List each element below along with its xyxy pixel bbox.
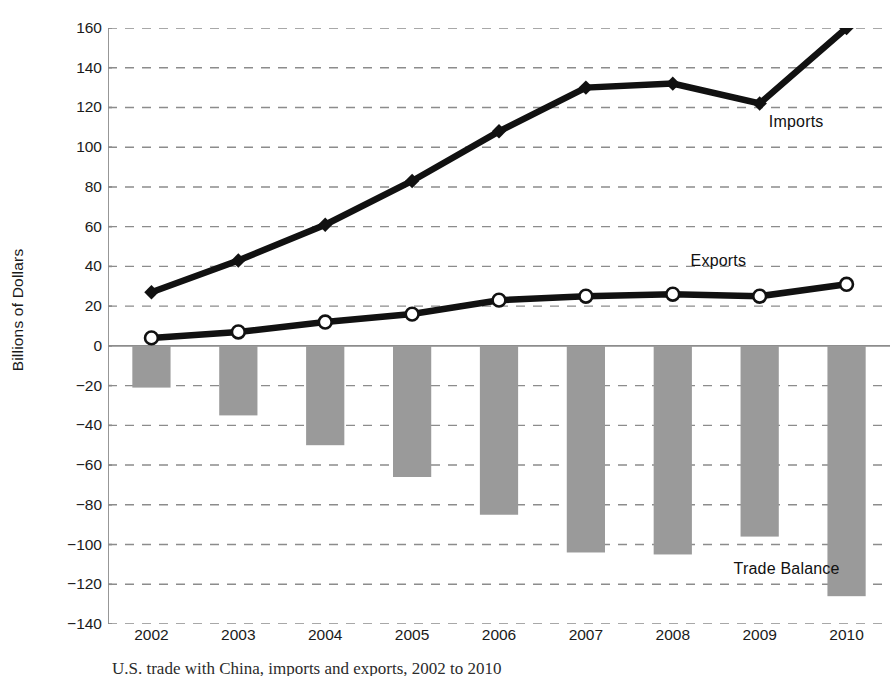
series-label-trade-balance: Trade Balance [734, 560, 840, 578]
y-tick-label: 160 [40, 19, 102, 37]
y-tick-label: −40 [40, 416, 102, 434]
bar-2006 [480, 346, 518, 515]
y-tick-label: −140 [40, 615, 102, 633]
x-tick-label-2003: 2003 [221, 626, 255, 644]
bar-2003 [219, 346, 257, 416]
marker-exports-2006 [493, 294, 506, 307]
x-tick-label-2008: 2008 [656, 626, 690, 644]
y-tick-label: 20 [40, 297, 102, 315]
x-axis-tick-labels: 200220032004200520062007200820092010 [108, 622, 890, 650]
y-tick-label: −100 [40, 536, 102, 554]
y-tick-label: 0 [40, 337, 102, 355]
x-tick-label-2006: 2006 [482, 626, 516, 644]
marker-exports-2002 [145, 332, 158, 345]
x-tick-label-2007: 2007 [569, 626, 603, 644]
y-tick-label: −20 [40, 377, 102, 395]
y-tick-label: 140 [40, 59, 102, 77]
y-tick-label: 80 [40, 178, 102, 196]
y-tick-label: −60 [40, 456, 102, 474]
x-tick-label-2004: 2004 [308, 626, 342, 644]
x-tick-label-2005: 2005 [395, 626, 429, 644]
x-tick-label-2002: 2002 [134, 626, 168, 644]
bar-2008 [654, 346, 692, 555]
y-tick-label: −80 [40, 496, 102, 514]
marker-exports-2005 [406, 308, 419, 321]
bar-2005 [393, 346, 431, 477]
y-tick-label: 100 [40, 138, 102, 156]
series-label-imports: Imports [769, 113, 824, 131]
marker-exports-2009 [753, 290, 766, 303]
y-tick-label: 60 [40, 218, 102, 236]
marker-exports-2003 [232, 326, 245, 339]
y-tick-label: −120 [40, 575, 102, 593]
y-axis-title-text: Billions of Dollars [9, 249, 27, 372]
marker-exports-2010 [840, 278, 853, 291]
bar-2007 [567, 346, 605, 553]
bar-2004 [306, 346, 344, 445]
bar-2010 [827, 346, 865, 596]
marker-exports-2007 [579, 290, 592, 303]
line-exports [151, 284, 846, 338]
y-axis-title: Billions of Dollars [4, 0, 32, 620]
series-label-exports: Exports [691, 252, 747, 270]
y-tick-label: 120 [40, 98, 102, 116]
marker-imports-2008 [666, 76, 680, 90]
figure-caption: U.S. trade with China, imports and expor… [112, 659, 812, 676]
bar-2002 [132, 346, 170, 388]
bar-2009 [741, 346, 779, 537]
plot-area: ImportsExportsTrade Balance [108, 28, 890, 624]
marker-exports-2004 [319, 316, 332, 329]
chart-figure: Billions of Dollars 16014012010080604020… [0, 0, 895, 676]
x-tick-label-2010: 2010 [829, 626, 863, 644]
y-tick-label: 40 [40, 257, 102, 275]
marker-exports-2008 [666, 288, 679, 301]
y-axis-tick-labels: 160140120100806040200−20−40−60−80−100−12… [36, 28, 102, 624]
x-tick-label-2009: 2009 [742, 626, 776, 644]
